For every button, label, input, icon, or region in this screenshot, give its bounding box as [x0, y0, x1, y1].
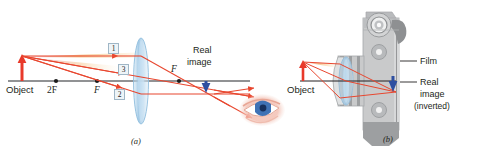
focal-point-left-label: F — [94, 85, 100, 95]
panel-a-graphics — [8, 38, 285, 126]
object-label-b: Object — [287, 85, 314, 95]
real-image-label-line1: Real — [193, 45, 212, 55]
eye-icon — [239, 94, 285, 126]
ray-number-3: 3 — [118, 64, 129, 75]
ray-number-2: 2 — [114, 89, 125, 100]
two-f-label: 2F — [47, 85, 57, 95]
object-arrow-icon — [18, 54, 27, 81]
real-image-label-line2: image — [187, 57, 212, 67]
caption-b: (b) — [383, 134, 393, 144]
real-image-label-b-line3: (inverted) — [414, 101, 450, 111]
object-label-a: Object — [6, 85, 33, 95]
ray-number-1: 1 — [108, 43, 119, 54]
figure-container: Object 2F F F Real image 1 3 2 (a) Objec… — [0, 0, 485, 161]
caption-a: (a) — [131, 136, 141, 146]
film-label: Film — [420, 56, 437, 66]
light-glow — [22, 52, 150, 58]
real-image-label-b-line1: Real — [420, 77, 439, 87]
focal-point-right-label: F — [171, 64, 177, 74]
optics-figure-graphics — [0, 0, 485, 161]
converging-lens-icon — [134, 38, 149, 124]
point-2f — [54, 79, 58, 83]
point-f-right — [177, 79, 181, 83]
viewfinder-icon — [367, 13, 391, 37]
panel-b-graphics — [299, 12, 417, 146]
real-image-label-b-line2: image — [420, 89, 445, 99]
